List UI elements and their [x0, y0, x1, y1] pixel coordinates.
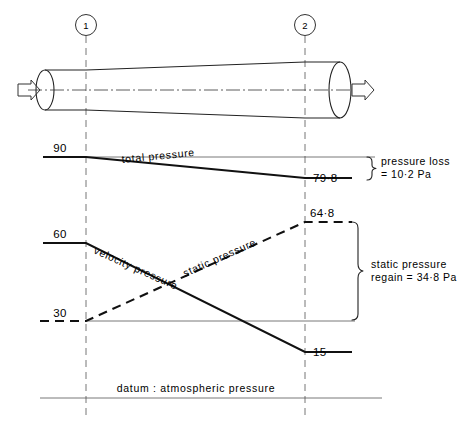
total-pressure-curve: [43, 157, 352, 178]
velocity-pressure-curve: [43, 243, 352, 352]
duct-assembly: [28, 62, 352, 118]
section-marker-1: 1: [76, 15, 97, 36]
static-pressure-start-value: 30: [53, 307, 67, 319]
section-marker-2: 2: [295, 15, 316, 36]
section-marker-label-1: 1: [83, 20, 88, 31]
velocity-pressure-end-value: 15: [313, 346, 327, 358]
static-regain-text-line2: regain = 34·8 Pa: [371, 271, 457, 283]
static-regain-brace: [352, 222, 363, 320]
section-reference-lines: [86, 36, 305, 418]
static-pressure-label: static pressure: [181, 236, 258, 279]
datum-group: datum : atmospheric pressure: [40, 382, 382, 398]
static-regain-text-line1: static pressure: [371, 258, 447, 270]
duct-top-profile: [45, 62, 340, 70]
flow-arrow-outlet-icon: [352, 80, 374, 100]
pressure-loss-text-line2: = 10·2 Pa: [381, 168, 431, 180]
total-pressure-plot: 90 79·8 total pressure: [43, 142, 375, 184]
velocity-pressure-label: velocity pressure: [92, 244, 180, 292]
static-regain-annotation: static pressure regain = 34·8 Pa: [352, 222, 457, 320]
duct-bottom-profile: [45, 110, 340, 118]
velocity-pressure-start-value: 60: [53, 228, 67, 240]
datum-label: datum : atmospheric pressure: [117, 382, 276, 394]
figure-canvas: 1 2: [0, 0, 462, 435]
velocity-static-pressure-plot: 60 15 30 64·8 velocity pressure static p…: [40, 207, 355, 358]
pressure-loss-brace: [367, 157, 376, 180]
pressure-loss-annotation: pressure loss = 10·2 Pa: [367, 155, 450, 180]
total-pressure-label: total pressure: [121, 146, 195, 165]
duct-pressure-diagram: 1 2: [0, 0, 462, 435]
static-pressure-end-value: 64·8: [310, 207, 335, 219]
pressure-loss-text-line1: pressure loss: [381, 155, 450, 167]
total-pressure-start-value: 90: [53, 142, 67, 154]
section-marker-label-2: 2: [302, 20, 307, 31]
total-pressure-end-value: 79·8: [313, 172, 338, 184]
